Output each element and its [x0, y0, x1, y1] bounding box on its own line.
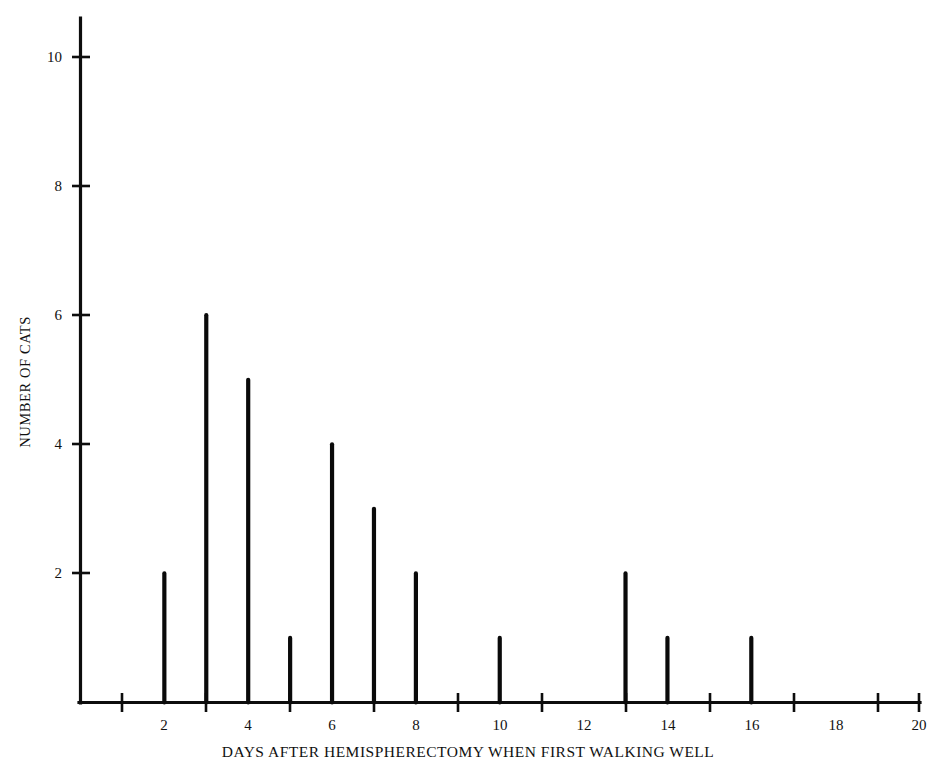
y-axis-title: NUMBER OF CATS — [17, 316, 33, 448]
x-tick-label-20: 20 — [912, 717, 927, 733]
x-tick-label-6: 6 — [328, 717, 336, 733]
x-tick-label-2: 2 — [160, 717, 168, 733]
y-tick-label-8: 8 — [55, 178, 63, 194]
x-tick-label-18: 18 — [829, 717, 844, 733]
x-tick-label-10: 10 — [493, 717, 508, 733]
y-tick-label-2: 2 — [55, 565, 63, 581]
y-tick-label-6: 6 — [55, 307, 63, 323]
chart-figure: 2 4 6 8 10 2 4 6 8 10 12 14 16 — [0, 0, 936, 771]
histogram-plot: 2 4 6 8 10 2 4 6 8 10 12 14 16 — [0, 0, 936, 771]
x-tick-group: 2 4 6 8 10 12 14 16 18 20 — [122, 693, 927, 733]
y-tick-label-10: 10 — [47, 49, 62, 65]
x-tick-label-12: 12 — [577, 717, 592, 733]
x-tick-label-16: 16 — [745, 717, 761, 733]
x-tick-label-8: 8 — [412, 717, 420, 733]
x-tick-label-14: 14 — [661, 717, 677, 733]
y-tick-label-4: 4 — [55, 436, 63, 452]
x-axis-title: DAYS AFTER HEMISPHERECTOMY WHEN FIRST WA… — [222, 743, 715, 760]
data-spikes-group — [164, 315, 751, 702]
y-tick-group: 2 4 6 8 10 — [47, 49, 90, 581]
x-tick-label-4: 4 — [244, 717, 252, 733]
